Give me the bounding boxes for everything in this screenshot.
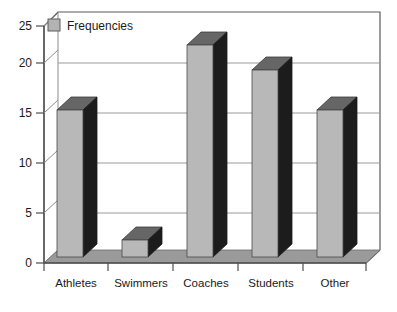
y-tick-label-25: 25 [19,19,33,33]
bar-students [252,57,292,257]
x-tick-label-students: Students [248,277,294,289]
bar-side-face-students [278,57,292,257]
bar-front-face-students [252,70,278,257]
bar-other [317,97,357,257]
bar-front-face-swimmers [122,240,148,257]
x-tick-label-other: Other [321,277,350,289]
legend-swatch-frequencies [48,19,60,31]
y-tick-marks [36,26,44,263]
bar-front-face-athletes [57,110,83,257]
x-tick-marks [44,263,366,271]
x-tick-label-coaches: Coaches [183,277,229,289]
y-tick-label-20: 20 [19,56,33,70]
bar-side-face-athletes [83,97,97,257]
x-tick-label-swimmers: Swimmers [114,277,168,289]
x-tick-label-athletes: Athletes [55,277,97,289]
bar-side-face-other [343,97,357,257]
bar-athletes [57,97,97,257]
y-tick-label-0: 0 [25,256,32,270]
y-tick-label-10: 10 [19,156,33,170]
chart-canvas: 0 5 10 15 20 25 [0,0,397,312]
legend-label-frequencies: Frequencies [67,19,133,33]
y-tick-label-15: 15 [19,106,33,120]
bar-side-face-coaches [213,32,227,257]
bar-front-face-coaches [187,45,213,257]
y-tick-label-5: 5 [25,206,32,220]
bar-front-face-other [317,110,343,257]
bar-chart-figure: 0 5 10 15 20 25 [0,0,397,312]
bar-coaches [187,32,227,257]
